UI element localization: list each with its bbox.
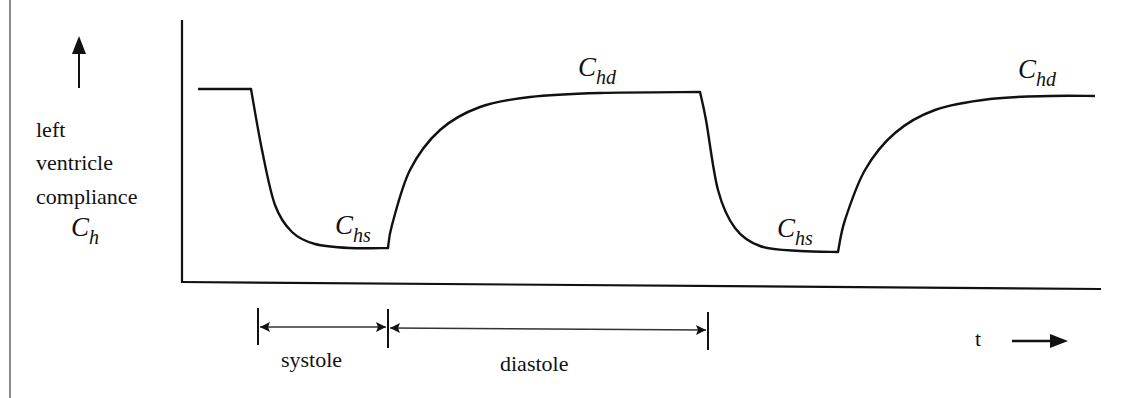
right-arrow-icon (1012, 334, 1068, 348)
label-c-hd-1: Chd (578, 52, 616, 89)
systole-interval (258, 308, 388, 348)
diagram-canvas (0, 0, 1131, 398)
ylabel-line-3: compliance (36, 184, 137, 210)
label-c-hs-1: Chs (335, 210, 371, 247)
ylabel-line-2: ventricle (36, 150, 113, 176)
time-label: t (975, 326, 981, 352)
compliance-diagram: left ventricle compliance Ch Chd Chs Chs… (0, 0, 1131, 398)
label-c-hd-2: Chd (1018, 54, 1056, 91)
up-arrow-icon (72, 36, 86, 88)
ylabel-line-1: left (36, 117, 65, 143)
x-axis (181, 282, 1101, 289)
diastole-interval (390, 312, 708, 350)
systole-label: systole (281, 347, 342, 373)
compliance-curve (198, 89, 1095, 252)
ylabel-symbol: Ch (71, 212, 99, 249)
diastole-label: diastole (500, 351, 568, 377)
label-c-hs-2: Chs (777, 213, 813, 250)
